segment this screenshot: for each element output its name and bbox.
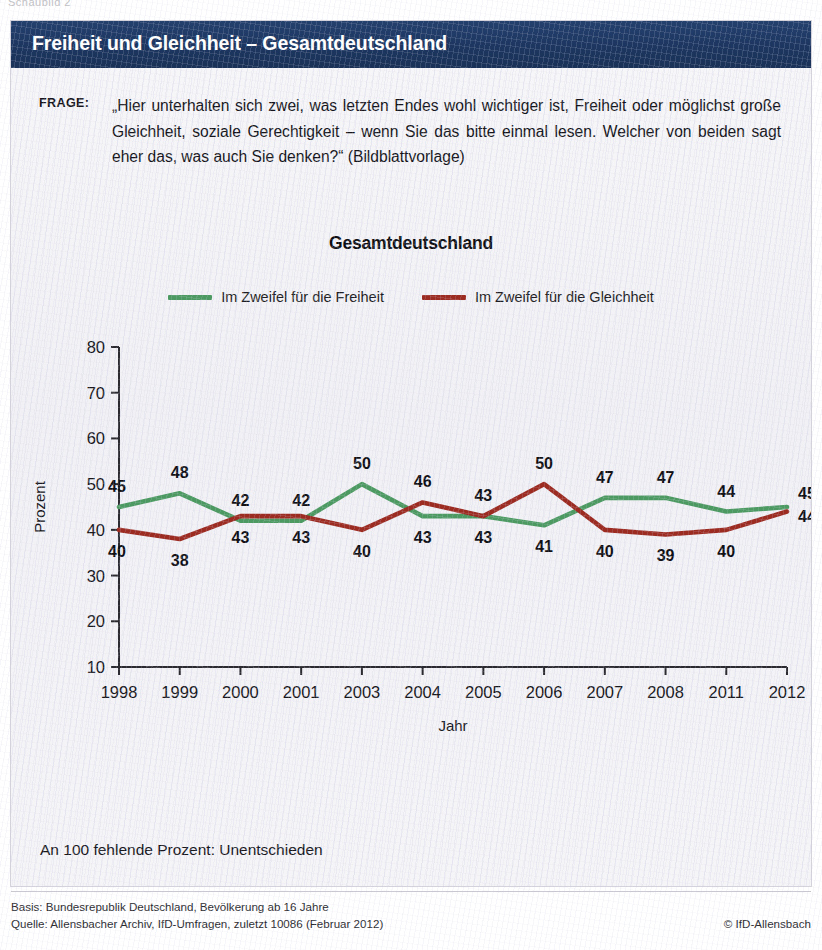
x-axis-tick-label: 1999 <box>161 683 198 701</box>
source-quelle: Quelle: Allensbacher Archiv, IfD-Umfrage… <box>11 916 811 933</box>
x-axis-tick-label: 2005 <box>465 683 502 701</box>
x-axis-tick-label: 2004 <box>404 683 441 701</box>
x-axis-tick-label: 2001 <box>283 683 320 701</box>
data-label-freiheit: 45 <box>108 478 126 495</box>
chart-title: Gesamtdeutschland <box>11 233 811 254</box>
legend-swatch-freiheit <box>168 295 212 300</box>
data-label-gleichheit: 43 <box>292 529 310 546</box>
data-label-gleichheit: 39 <box>657 547 675 564</box>
x-axis-tick-label: 2012 <box>769 683 806 701</box>
legend-label-gleichheit: Im Zweifel für die Gleichheit <box>475 289 654 305</box>
y-axis-tick-label: 40 <box>87 521 105 539</box>
x-axis-tick-label: 2008 <box>647 683 684 701</box>
series-line-freiheit <box>119 484 787 525</box>
data-label-gleichheit: 40 <box>596 543 614 560</box>
data-label-freiheit: 41 <box>535 538 553 555</box>
y-axis-tick-label: 30 <box>87 567 105 585</box>
data-label-gleichheit: 43 <box>474 487 492 504</box>
page-title: Freiheit und Gleichheit – Gesamtdeutschl… <box>32 32 447 55</box>
data-label-freiheit: 43 <box>414 529 432 546</box>
data-label-gleichheit: 40 <box>717 543 735 560</box>
data-label-freiheit: 50 <box>353 455 371 472</box>
y-axis-tick-label: 50 <box>87 475 105 493</box>
chart-footnote: An 100 fehlende Prozent: Unentschieden <box>40 841 323 859</box>
copyright-notice: © IfD-Allensbach <box>724 916 811 933</box>
data-label-freiheit: 42 <box>292 492 310 509</box>
y-axis-tick-label: 60 <box>87 429 105 447</box>
chart-svg: 1020304050607080Prozent19981999200020012… <box>11 329 811 769</box>
source-block: Basis: Bundesrepublik Deutschland, Bevöl… <box>11 899 811 932</box>
data-label-freiheit: 43 <box>474 529 492 546</box>
data-label-freiheit: 42 <box>232 492 250 509</box>
x-axis-title: Jahr <box>438 717 467 734</box>
data-label-gleichheit: 43 <box>232 529 250 546</box>
data-label-gleichheit: 40 <box>108 543 126 560</box>
data-label-gleichheit: 40 <box>353 543 371 560</box>
y-axis-title: Prozent <box>31 480 48 533</box>
chart-area: Gesamtdeutschland Im Zweifel für die Fre… <box>11 233 811 793</box>
x-axis-tick-label: 1998 <box>101 683 138 701</box>
line-chart-plot: 1020304050607080Prozent19981999200020012… <box>11 329 811 769</box>
data-label-freiheit: 45 <box>798 485 811 502</box>
legend-label-freiheit: Im Zweifel für die Freiheit <box>221 289 384 305</box>
data-label-freiheit: 44 <box>717 483 735 500</box>
x-axis-tick-label: 2007 <box>586 683 623 701</box>
x-axis-tick-label: 2003 <box>344 683 381 701</box>
y-axis-tick-label: 10 <box>87 658 105 676</box>
x-axis-tick-label: 2006 <box>526 683 563 701</box>
legend-item-freiheit: Im Zweifel für die Freiheit <box>168 289 384 305</box>
y-axis-tick-label: 20 <box>87 612 105 630</box>
source-basis: Basis: Bundesrepublik Deutschland, Bevöl… <box>11 899 811 916</box>
y-axis-tick-label: 80 <box>87 338 105 356</box>
data-label-gleichheit: 46 <box>414 473 432 490</box>
chart-number-caption: Schaubild 2 <box>8 0 71 8</box>
card-header-bar: Freiheit und Gleichheit – Gesamtdeutschl… <box>11 21 811 68</box>
legend-swatch-gleichheit <box>422 295 466 300</box>
data-label-gleichheit: 38 <box>171 552 189 569</box>
y-axis-tick-label: 70 <box>87 384 105 402</box>
chart-card: Freiheit und Gleichheit – Gesamtdeutschl… <box>11 21 811 886</box>
question-label: FRAGE: <box>39 96 89 110</box>
question-text: „Hier unterhalten sich zwei, was letzten… <box>112 93 781 170</box>
chart-legend: Im Zweifel für die Freiheit Im Zweifel f… <box>11 289 811 305</box>
x-axis-tick-label: 2000 <box>222 683 259 701</box>
data-label-gleichheit: 50 <box>535 455 553 472</box>
source-divider <box>11 891 811 892</box>
data-label-freiheit: 47 <box>596 469 614 486</box>
legend-item-gleichheit: Im Zweifel für die Gleichheit <box>422 289 654 305</box>
x-axis-tick-label: 2011 <box>709 683 744 701</box>
data-label-freiheit: 47 <box>657 469 675 486</box>
data-label-gleichheit: 44 <box>798 508 811 525</box>
data-label-freiheit: 48 <box>171 464 189 481</box>
question-block: FRAGE: „Hier unterhalten sich zwei, was … <box>39 93 781 170</box>
